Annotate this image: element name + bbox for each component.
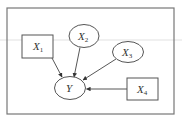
node-x2: X2 [69,25,99,48]
edge-x3-to-y [83,59,116,80]
causal-diagram: X1 X2 X3 Y X4 [0,0,182,119]
edge-x1-to-y [52,58,62,77]
node-y: Y [55,77,86,100]
node-x4: X4 [127,78,158,100]
node-x3: X3 [113,42,144,63]
edge-x2-to-y [74,48,80,78]
node-x1: X1 [22,35,53,58]
